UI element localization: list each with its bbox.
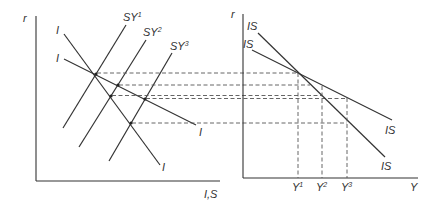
is-steep-bottom-label: IS [381,160,392,172]
investment-flat-top-label: I [56,52,59,64]
equilibrium-point [143,97,146,100]
is-curve-steep [258,33,385,157]
saving-curve-sy2 [79,40,146,147]
is-steep-top-label: IS [247,20,258,32]
is-flat-top-label: IS [243,38,254,50]
left-panel: r I,S I I I I SY1 SY2 SY3 [23,11,220,200]
y2-label: Y2 [316,181,327,193]
sy3-label: SY3 [170,40,189,52]
right-x-axis-label: Y [410,181,418,193]
sy2-label: SY2 [143,26,162,38]
right-panel: r Y IS IS IS IS Y1 Y2 Y3 [231,8,418,193]
y1-label: Y1 [292,181,303,193]
equilibrium-point [109,94,112,97]
investment-steep-bottom-label: I [162,161,165,173]
is-derivation-diagram: r I,S I I I I SY1 SY2 SY3 r [0,0,442,207]
y3-label: Y3 [341,181,352,193]
investment-steep-top-label: I [56,24,59,36]
investment-flat-bottom-label: I [199,126,202,138]
left-y-axis-label: r [23,12,28,24]
is-flat-bottom-label: IS [385,124,396,136]
saving-curve-sy1 [63,25,126,128]
saving-curve-sy3 [109,53,172,161]
investment-curve-flat [64,59,196,125]
left-x-axis-label: I,S [204,188,218,200]
right-y-axis-label: r [231,8,236,20]
sy1-label: SY1 [123,11,142,23]
horizontal-connector-lines [97,73,347,123]
